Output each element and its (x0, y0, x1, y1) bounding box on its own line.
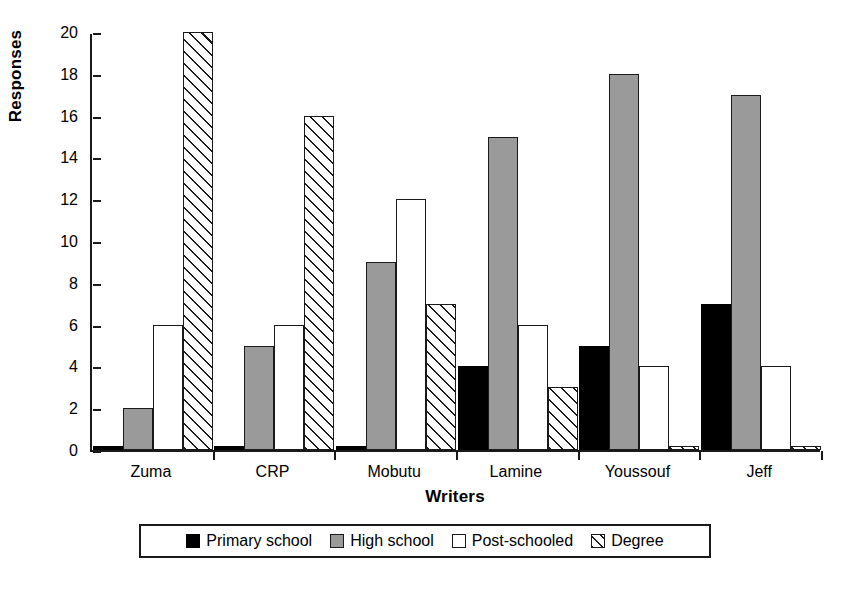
y-axis-tick-label: 4 (69, 357, 78, 377)
bar-group (214, 34, 336, 450)
plot-area: 02468101214161820 (90, 34, 820, 452)
bar-primary (458, 366, 488, 450)
bar-post (396, 199, 426, 450)
y-axis-tick-label: 16 (60, 107, 78, 127)
bar-group-bars (700, 34, 822, 450)
legend-swatch-degree-icon (591, 534, 605, 548)
legend-item-label: Primary school (206, 532, 312, 550)
x-axis-tick-mark (456, 451, 458, 460)
bar-group (335, 34, 457, 450)
x-axis-tick-mark (821, 451, 823, 460)
y-axis-tick-label: 8 (69, 274, 78, 294)
x-axis-label-lamine: Lamine (455, 462, 577, 482)
bar-high (366, 262, 396, 450)
x-axis-label-mobutu: Mobutu (333, 462, 455, 482)
x-axis-label-crp: CRP (212, 462, 334, 482)
bar-high (123, 408, 153, 450)
y-axis-tick-label: 6 (69, 316, 78, 336)
bar-degree (183, 32, 213, 450)
bar-degree (304, 116, 334, 450)
bar-high (488, 137, 518, 451)
y-axis-tick-label: 12 (60, 190, 78, 210)
y-axis-tick-label: 14 (60, 148, 78, 168)
bar-post (639, 366, 669, 450)
bar-group (700, 34, 822, 450)
bar-primary (579, 346, 609, 451)
legend-item: Primary school (186, 532, 312, 550)
bar-primary (336, 446, 366, 450)
bar-degree (548, 387, 578, 450)
x-axis-tick-mark (578, 451, 580, 460)
x-axis-tick-mark (213, 451, 215, 460)
legend-swatch-post-icon (452, 534, 466, 548)
bar-degree (426, 304, 456, 450)
chart-legend: Primary schoolHigh schoolPost-schooledDe… (139, 524, 711, 558)
y-axis-tick-label: 0 (69, 441, 78, 461)
legend-item-label: Post-schooled (472, 532, 573, 550)
x-axis-tick-mark (699, 451, 701, 460)
bar-post (761, 366, 791, 450)
bar-primary (93, 446, 123, 450)
bar-high (609, 74, 639, 450)
bar-degree (669, 446, 699, 450)
y-axis-tick-label: 20 (60, 23, 78, 43)
bar-group-bars (214, 34, 336, 450)
bar-group-bars (335, 34, 457, 450)
bar-group-bars (457, 34, 579, 450)
bar-group (579, 34, 701, 450)
legend-item: Post-schooled (452, 532, 573, 550)
x-axis-label-zuma: Zuma (90, 462, 212, 482)
y-axis-title: Responses (6, 0, 32, 176)
bar-post (153, 325, 183, 450)
y-axis-tick-label: 2 (69, 399, 78, 419)
bar-group-bars (92, 34, 214, 450)
bar-high (731, 95, 761, 450)
legend-item: Degree (591, 532, 663, 550)
x-axis-tick-mark (334, 451, 336, 460)
bar-groups (92, 34, 820, 450)
bar-group-bars (579, 34, 701, 450)
y-axis-tick-mark (93, 451, 101, 453)
legend-swatch-primary-icon (186, 534, 200, 548)
bar-post (274, 325, 304, 450)
bar-post (518, 325, 548, 450)
x-axis-label-youssouf: Youssouf (577, 462, 699, 482)
bar-group (457, 34, 579, 450)
legend-swatch-high-icon (330, 534, 344, 548)
bar-primary (214, 446, 244, 450)
x-axis-label-jeff: Jeff (698, 462, 820, 482)
bar-primary (701, 304, 731, 450)
legend-item: High school (330, 532, 434, 550)
bar-degree (791, 446, 821, 450)
bar-high (244, 346, 274, 451)
bar-group (92, 34, 214, 450)
bar-chart: Responses 02468101214161820 ZumaCRPMobut… (0, 0, 850, 590)
legend-item-label: Degree (611, 532, 663, 550)
legend-item-label: High school (350, 532, 434, 550)
y-axis-tick-label: 10 (60, 232, 78, 252)
y-axis-tick-label: 18 (60, 65, 78, 85)
x-axis-title: Writers (90, 487, 820, 507)
